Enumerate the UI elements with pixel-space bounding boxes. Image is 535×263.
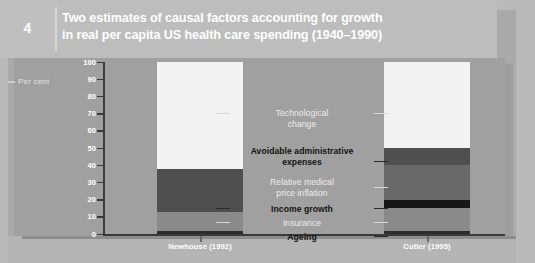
bar-category-label: Newhouse (1992) (125, 242, 275, 251)
figure-title: Two estimates of causal factors accounti… (62, 10, 462, 43)
legend-label-line: price inflation (232, 188, 372, 199)
legend-leader-line (374, 187, 388, 188)
legend-leader-line (216, 222, 230, 223)
y-axis-tick-label: 0 (70, 230, 96, 239)
legend-label-ageing: Ageing (232, 232, 372, 243)
figure-number: 4 (0, 20, 55, 36)
legend-leader-line (374, 222, 388, 223)
figure-title-line-1: Two estimates of causal factors accounti… (62, 10, 462, 27)
bar-segment[interactable] (384, 200, 470, 209)
bar-segment[interactable] (157, 62, 243, 169)
y-axis-tick-label: 80 (70, 92, 96, 101)
legend-leader-line (216, 208, 230, 209)
legend-label-line: Insurance (232, 218, 372, 229)
y-axis-tick-label: 90 (70, 75, 96, 84)
y-axis-tick-label: 50 (70, 144, 96, 153)
figure-title-line-2: in real per capita US health care spendi… (62, 27, 462, 44)
y-axis-tick-label: 70 (70, 109, 96, 118)
legend-label-line: Technological (232, 108, 372, 119)
legend-leader-line (374, 113, 388, 114)
stacked-bar[interactable] (157, 62, 243, 234)
axis-title-leader (8, 81, 15, 83)
bar-segment[interactable] (384, 148, 470, 165)
y-axis-title: Per cent (18, 77, 49, 86)
legend-label-line: Income growth (232, 204, 372, 215)
stacked-bar[interactable] (384, 62, 470, 234)
legend-leader-line (374, 161, 388, 162)
legend-label-line: change (232, 119, 372, 130)
y-axis-line (103, 62, 105, 236)
legend-label-technological-change: Technologicalchange (232, 108, 372, 129)
legend-label-avoidable-administrative-expenses: Avoidable administrativeexpenses (232, 146, 372, 167)
y-axis-tick-label: 20 (70, 195, 96, 204)
legend-label-line: Ageing (232, 232, 372, 243)
legend-leader-line (374, 236, 388, 237)
bar-category-label: Cutler (1995) (352, 242, 502, 251)
bar-segment[interactable] (157, 231, 243, 234)
chart-legend: TechnologicalchangeAvoidable administrat… (232, 60, 372, 238)
figure-container: 4 Two estimates of causal factors accoun… (0, 0, 535, 263)
bar-segment[interactable] (384, 208, 470, 230)
legend-label-income-growth: Income growth (232, 204, 372, 215)
y-axis-tick-label: 40 (70, 161, 96, 170)
legend-label-line: Avoidable administrative (232, 146, 372, 157)
bar-segment[interactable] (384, 231, 470, 234)
legend-leader-line (216, 113, 230, 114)
figure-number-divider (55, 7, 57, 51)
legend-label-line: Relative medical (232, 177, 372, 188)
y-axis-tick-label: 30 (70, 178, 96, 187)
legend-label-relative-medical-price-inflation: Relative medicalprice inflation (232, 177, 372, 198)
bar-segment[interactable] (384, 165, 470, 199)
legend-label-insurance: Insurance (232, 218, 372, 229)
legend-label-line: expenses (232, 157, 372, 168)
y-axis-tick-label: 10 (70, 212, 96, 221)
bar-segment[interactable] (157, 212, 243, 231)
y-axis-tick-label: 100 (70, 58, 96, 67)
y-axis-tick-label: 60 (70, 126, 96, 135)
legend-leader-line (374, 208, 388, 209)
bar-segment[interactable] (384, 62, 470, 148)
bar-segment[interactable] (157, 169, 243, 212)
